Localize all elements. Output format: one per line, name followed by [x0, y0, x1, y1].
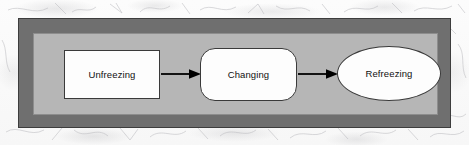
diagram-page: Unfreezing Changing Refreezing — [0, 0, 469, 145]
process-node-refreezing-label: Refreezing — [366, 69, 413, 79]
process-node-changing-label: Changing — [228, 70, 269, 80]
process-flow: Unfreezing Changing Refreezing — [34, 34, 437, 114]
process-node-unfreezing-label: Unfreezing — [89, 70, 136, 80]
arrow-changing-to-refreezing-icon — [298, 68, 338, 80]
process-node-refreezing[interactable]: Refreezing — [337, 46, 441, 101]
arrow-unfreezing-to-changing-icon — [161, 68, 201, 80]
process-node-changing[interactable]: Changing — [200, 48, 297, 101]
figure-outer-frame: Unfreezing Changing Refreezing — [18, 18, 451, 128]
figure-inner-panel: Unfreezing Changing Refreezing — [33, 33, 438, 115]
process-node-unfreezing[interactable]: Unfreezing — [64, 50, 160, 99]
